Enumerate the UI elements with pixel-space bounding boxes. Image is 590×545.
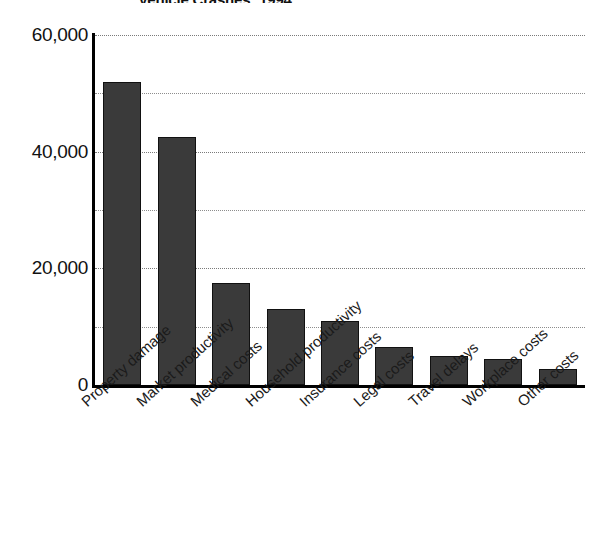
bar-chart: Vehicle Crashes: 1994 020,00040,00060,00… (0, 0, 590, 545)
y-axis-tick-label: 60,000 (2, 24, 88, 46)
gridline (95, 93, 585, 94)
y-axis-tick-label: 20,000 (2, 257, 88, 279)
x-axis-category-labels: Property damageMarket productivityMedica… (0, 385, 590, 545)
y-axis-tick-label: 40,000 (2, 141, 88, 163)
gridline (95, 35, 585, 36)
bar (103, 82, 141, 385)
